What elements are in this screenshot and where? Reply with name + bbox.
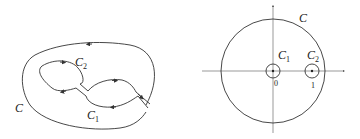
left-contour-diagram: C C2 C1 xyxy=(0,0,180,139)
label-c-big: C xyxy=(299,11,308,25)
label-c1-right: C1 xyxy=(278,48,290,64)
point-0 xyxy=(272,70,274,72)
right-circle-diagram: C C1 C2 0 1 xyxy=(180,0,360,139)
label-c2: C2 xyxy=(75,55,87,71)
tick-1: 1 xyxy=(311,81,315,90)
label-c1: C1 xyxy=(87,108,99,124)
tick-0: 0 xyxy=(274,79,278,88)
label-c2-right: C2 xyxy=(307,48,319,64)
point-1 xyxy=(311,70,313,72)
arrow-c2-top-icon xyxy=(60,62,64,63)
label-c-outer: C xyxy=(15,101,24,115)
inner-contour-c1 xyxy=(86,79,150,108)
